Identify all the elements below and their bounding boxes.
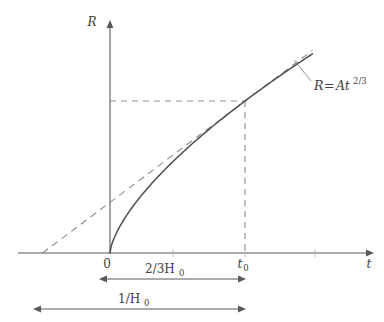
x-axis-arrowhead <box>366 249 374 256</box>
plot-svg: R t 0 t 0 R = At 2/3 2/3H 0 1/H 0 <box>0 0 384 322</box>
dim-label-1-h0-subscript: 0 <box>144 298 149 308</box>
dim-arrowhead-right-1-h0 <box>238 306 246 313</box>
dim-arrowhead-right-2-3-h0 <box>238 276 246 283</box>
dim-label-2-3-h0-subscript: 0 <box>179 268 184 278</box>
y-axis-arrowhead <box>107 20 114 28</box>
dim-arrowhead-left-2-3-h0 <box>99 276 107 283</box>
dimension-label-hubble-time: 1/H 0 <box>118 292 149 308</box>
scale-factor-curve <box>110 54 313 253</box>
dim-label-1-h0-main: 1/H <box>118 292 140 306</box>
equation-lhs: R <box>313 78 323 93</box>
curve-equation-label: R = At 2/3 <box>313 76 367 93</box>
dim-label-2-3-h0-main: 2/3H <box>145 262 175 276</box>
equation-equals: = <box>324 78 334 93</box>
t0-guide-lines <box>110 101 245 253</box>
dimension-arrow-two-thirds-hubble <box>99 276 246 283</box>
dimension-arrow-hubble-time <box>33 306 246 313</box>
dimension-label-two-thirds-hubble: 2/3H 0 <box>145 262 184 278</box>
t0-tick-label: t 0 <box>238 257 249 273</box>
x-axis-label: t <box>367 257 372 271</box>
y-axis-label: R <box>86 15 96 29</box>
t0-label-base: t <box>238 257 243 271</box>
equation-exponent: 2/3 <box>353 76 367 86</box>
t0-label-subscript: 0 <box>243 263 248 273</box>
origin-label: 0 <box>103 257 111 271</box>
dim-arrowhead-left-1-h0 <box>33 306 41 313</box>
cosmology-scale-factor-figure: R t 0 t 0 R = At 2/3 2/3H 0 1/H 0 <box>0 0 384 322</box>
equation-leader-line <box>294 60 311 81</box>
equation-coefficient: At <box>335 78 351 93</box>
axes-group <box>18 20 374 257</box>
